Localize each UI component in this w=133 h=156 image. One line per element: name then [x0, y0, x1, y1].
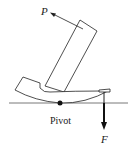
- arrowhead-p-icon: [50, 13, 56, 18]
- label-p: P: [40, 5, 48, 17]
- lever-diagram: P Pivot F: [0, 0, 133, 156]
- force-p-arrow: [53, 14, 83, 29]
- pivot-point: [58, 101, 63, 106]
- arrowhead-f-icon: [101, 122, 107, 130]
- label-pivot: Pivot: [50, 115, 71, 126]
- hammer-handle: [45, 20, 97, 92]
- label-f: F: [100, 133, 108, 145]
- nail-head: [99, 89, 110, 92]
